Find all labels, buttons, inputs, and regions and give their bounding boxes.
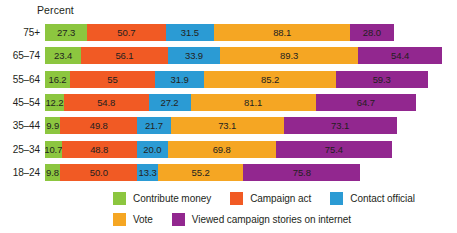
chart-row: 18–249.850.013.355.275.8 xyxy=(0,161,457,184)
stacked-bar: 9.850.013.355.275.8 xyxy=(45,164,360,181)
legend-item[interactable]: Campaign act xyxy=(230,192,311,205)
legend-row: VoteViewed campaign stories on internet xyxy=(0,209,457,230)
legend-item[interactable]: Contact official xyxy=(330,192,415,205)
axis-caption: Percent xyxy=(37,4,74,16)
legend-item[interactable]: Vote xyxy=(113,213,153,226)
bar-segment: 64.7 xyxy=(316,94,416,111)
bar-segment: 31.9 xyxy=(155,71,204,88)
chart-row: 65–7423.456.133.989.354.4 xyxy=(0,44,457,67)
bar-segment: 12.2 xyxy=(45,94,64,111)
bar-segment: 59.3 xyxy=(336,71,428,88)
legend-row: Contribute moneyCampaign actContact offi… xyxy=(0,188,457,209)
chart-row: 75+27.350.731.588.128.0 xyxy=(0,21,457,44)
stacked-bar: 12.254.827.281.164.7 xyxy=(45,94,416,111)
legend-label: Campaign act xyxy=(250,193,311,204)
stacked-bar: 23.456.133.989.354.4 xyxy=(45,47,442,64)
category-label: 65–74 xyxy=(0,50,45,61)
category-label: 35–44 xyxy=(0,120,45,131)
bar-segment: 48.8 xyxy=(62,141,137,158)
legend-item[interactable]: Contribute money xyxy=(113,192,211,205)
stacked-bar: 27.350.731.588.128.0 xyxy=(45,24,394,41)
bar-segment: 49.8 xyxy=(60,117,137,134)
bar-segment: 50.7 xyxy=(87,24,165,41)
legend-swatch-icon xyxy=(330,192,343,205)
stacked-bar: 9.949.821.773.173.1 xyxy=(45,117,397,134)
category-label: 25–34 xyxy=(0,144,45,155)
bar-segment: 27.2 xyxy=(149,94,191,111)
chart-legend: Contribute moneyCampaign actContact offi… xyxy=(0,188,457,230)
bar-segment: 75.4 xyxy=(276,141,392,158)
legend-label: Contact official xyxy=(350,193,415,204)
legend-swatch-icon xyxy=(113,213,126,226)
bar-segment: 21.7 xyxy=(137,117,171,134)
bar-segment: 56.1 xyxy=(81,47,168,64)
bar-segment: 85.2 xyxy=(204,71,336,88)
category-label: 55–64 xyxy=(0,74,45,85)
bar-segment: 13.3 xyxy=(137,164,158,181)
plot-area: 75+27.350.731.588.128.065–7423.456.133.9… xyxy=(0,21,457,184)
bar-segment: 16.2 xyxy=(45,71,70,88)
chart-row: 55–6416.25531.985.259.3 xyxy=(0,68,457,91)
bar-segment: 9.9 xyxy=(45,117,60,134)
stacked-bar-chart: Percent 75+27.350.731.588.128.065–7423.4… xyxy=(0,0,457,233)
category-label: 18–24 xyxy=(0,167,45,178)
bar-segment: 23.4 xyxy=(45,47,81,64)
legend-label: Viewed campaign stories on internet xyxy=(192,214,351,225)
bar-segment: 73.1 xyxy=(171,117,284,134)
legend-label: Vote xyxy=(133,214,153,225)
category-label: 75+ xyxy=(0,27,45,38)
legend-item[interactable]: Viewed campaign stories on internet xyxy=(172,213,351,226)
chart-row: 45–5412.254.827.281.164.7 xyxy=(0,91,457,114)
chart-row: 35–449.949.821.773.173.1 xyxy=(0,114,457,137)
stacked-bar: 16.25531.985.259.3 xyxy=(45,71,428,88)
bar-segment: 73.1 xyxy=(284,117,397,134)
bar-segment: 54.8 xyxy=(64,94,149,111)
legend-swatch-icon xyxy=(172,213,185,226)
bar-segment: 55.2 xyxy=(158,164,243,181)
bar-segment: 55 xyxy=(70,71,155,88)
bar-segment: 28.0 xyxy=(350,24,393,41)
legend-swatch-icon xyxy=(230,192,243,205)
bar-segment: 27.3 xyxy=(45,24,87,41)
bar-segment: 81.1 xyxy=(191,94,316,111)
category-label: 45–54 xyxy=(0,97,45,108)
bar-segment: 33.9 xyxy=(168,47,220,64)
legend-swatch-icon xyxy=(113,192,126,205)
chart-row: 25–3410.748.820.069.875.4 xyxy=(0,137,457,160)
bar-segment: 88.1 xyxy=(214,24,350,41)
bar-segment: 89.3 xyxy=(220,47,358,64)
legend-label: Contribute money xyxy=(133,193,211,204)
stacked-bar: 10.748.820.069.875.4 xyxy=(45,141,392,158)
bar-segment: 54.4 xyxy=(358,47,442,64)
bar-segment: 20.0 xyxy=(137,141,168,158)
bar-segment: 9.8 xyxy=(45,164,60,181)
bar-segment: 50.0 xyxy=(60,164,137,181)
bar-segment: 75.8 xyxy=(243,164,360,181)
bar-segment: 10.7 xyxy=(45,141,62,158)
bar-segment: 31.5 xyxy=(166,24,215,41)
bar-segment: 69.8 xyxy=(168,141,276,158)
